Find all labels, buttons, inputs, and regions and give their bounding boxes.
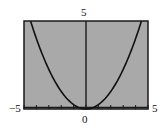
origin-label: 0 bbox=[82, 114, 88, 125]
x-min-label: −5 bbox=[9, 103, 21, 114]
x-max-label: 5 bbox=[152, 103, 158, 114]
y-max-label: 5 bbox=[81, 7, 87, 18]
